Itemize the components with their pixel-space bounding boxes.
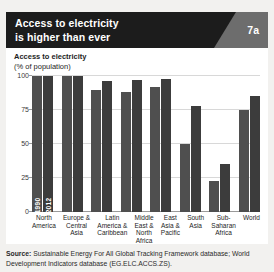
header-badge-panel [210,12,268,48]
bar-group [180,76,201,212]
series-label-2012: 2012 [45,198,52,214]
x-axis-label: NorthAmerica [32,214,56,244]
x-axis-label: Sub-SaharanAfrica [211,214,236,244]
bar-1990 [180,144,190,212]
y-axis-tick-label: 75 [21,106,29,113]
bar-series-container: 19902012 [32,76,260,212]
chart-card: Access to electricity (% of population) … [6,48,268,244]
x-axis-labels: NorthAmericaEurope &CentralAsiaLatinAmer… [32,214,260,244]
bar-1990 [150,87,160,212]
bar-2012 [132,80,142,212]
bar-1990 [91,90,101,212]
x-axis-label: World [243,214,260,244]
bar-2012 [73,76,83,212]
chart-subtitle: (% of population) [14,62,71,71]
y-axis-tick-label: 50 [21,140,29,147]
x-axis-label: EastAsia &Pacific [161,214,180,244]
bar-2012: 2012 [43,76,53,212]
bar-1990 [121,92,131,212]
bar-1990 [62,76,72,212]
bar-group [62,76,83,212]
bar-2012 [220,164,230,212]
source-note: Source: Sustainable Energy For All Globa… [6,249,270,268]
source-label: Source: [6,250,31,257]
bar-2012 [250,96,260,212]
page-title-line-2: is higher than ever [15,30,215,44]
bar-group [150,76,171,212]
chart-page: Access to electricity is higher than eve… [0,0,274,272]
y-axis-tick-label: 25 [21,174,29,181]
bar-2012 [102,81,112,212]
bar-1990 [239,110,249,212]
x-axis-label: MiddleEast &NorthAfrica [134,214,153,244]
series-label-1990: 1990 [34,198,41,214]
header-banner: Access to electricity is higher than eve… [6,12,268,48]
bar-2012 [161,79,171,212]
bar-1990 [209,181,219,212]
bar-group [209,76,230,212]
bar-1990: 1990 [32,76,42,212]
x-axis-label: Europe &CentralAsia [63,214,90,244]
page-title: Access to electricity is higher than eve… [15,16,215,44]
y-axis-tick-label: 100 [17,72,29,79]
bar-group [239,76,260,212]
x-axis-label: SouthAsia [187,214,204,244]
chart-title: Access to electricity [14,52,87,61]
x-axis-label: LatinAmerica &Caribbean [97,214,127,244]
page-title-line-1: Access to electricity [15,16,215,30]
bar-2012 [191,106,201,212]
bar-group [121,76,142,212]
bar-group [91,76,112,212]
bar-group: 19902012 [32,76,53,212]
plot-area: 0255075100 19902012 [32,76,260,212]
figure-number-badge: 7a [247,24,259,36]
source-text: Sustainable Energy For All Global Tracki… [6,250,250,267]
